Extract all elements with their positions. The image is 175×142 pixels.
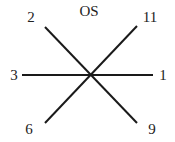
extraocular-muscle-diagram: OS 2 11 3 1 6 9: [0, 0, 175, 142]
label-top-right: 11: [143, 9, 157, 25]
label-top-left: 2: [27, 9, 35, 25]
label-left: 3: [10, 67, 18, 83]
eye-label: OS: [79, 3, 98, 19]
label-bottom-right: 9: [148, 121, 156, 137]
label-right: 1: [159, 67, 167, 83]
label-bottom-left: 6: [25, 121, 33, 137]
